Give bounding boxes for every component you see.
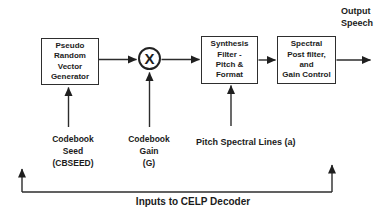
celp-decoder-block-diagram: Pseudo Random Vector Generator X Synthes… bbox=[0, 0, 392, 217]
codebook-seed-label: Codebook Seed (CBSEED) bbox=[38, 133, 108, 169]
synthesis-filter-block: Synthesis Filter - Pitch & Format bbox=[201, 36, 258, 84]
pitch-spectral-lines-label: Pitch Spectral Lines (a) bbox=[196, 137, 296, 147]
pseudo-random-vector-generator-block: Pseudo Random Vector Generator bbox=[41, 38, 99, 85]
inputs-caption: Inputs to CELP Decoder bbox=[103, 196, 283, 207]
spectral-postfilter-block: Spectral Post filter, and Gain Control bbox=[277, 36, 336, 84]
multiply-icon: X bbox=[144, 51, 154, 66]
output-speech-label: Output Speech bbox=[341, 5, 373, 29]
diagram-wires bbox=[0, 0, 392, 217]
codebook-gain-label: Codebook Gain (G) bbox=[114, 133, 184, 169]
multiplier-node: X bbox=[138, 47, 161, 70]
